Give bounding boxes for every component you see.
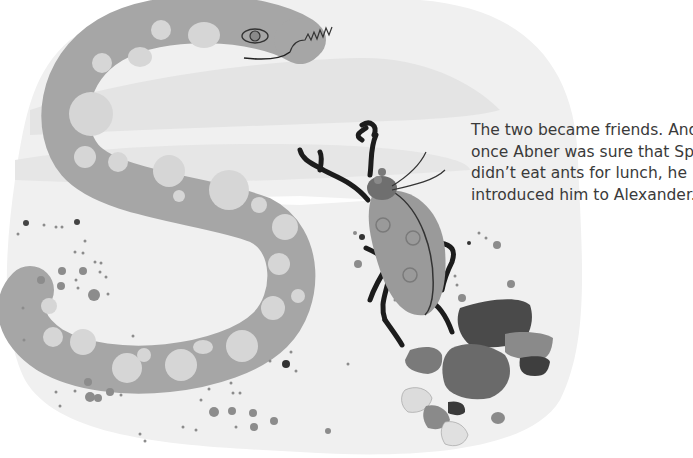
story-line-2: once Abner was sure that Spotty (471, 142, 686, 164)
story-line-4: introduced him to Alexander. (471, 185, 686, 207)
story-line-1: The two became friends. And (471, 120, 686, 142)
story-line-3: didn’t eat ants for lunch, he (471, 163, 686, 185)
illustration-scene (0, 0, 693, 458)
story-text: The two became friends. And once Abner w… (471, 120, 686, 206)
